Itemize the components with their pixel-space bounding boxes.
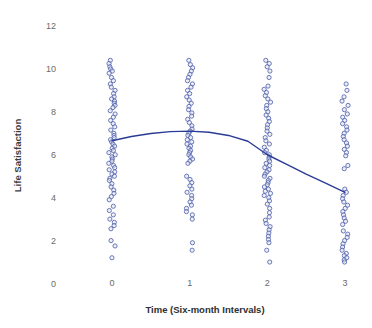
- data-point: [113, 244, 117, 248]
- data-point: [341, 222, 345, 226]
- data-point: [111, 204, 115, 208]
- y-tick-label-2: 2: [34, 236, 56, 246]
- x-tick-label-0: 0: [100, 278, 124, 288]
- data-point: [108, 217, 112, 221]
- data-point: [185, 190, 189, 194]
- data-point: [190, 213, 194, 217]
- data-point: [107, 71, 111, 75]
- trend-line: [112, 131, 345, 192]
- data-point: [262, 193, 266, 197]
- data-point: [113, 166, 117, 170]
- y-tick-label-0: 0: [34, 279, 56, 289]
- y-tick-label-12: 12: [34, 21, 56, 31]
- data-points-layer: [107, 58, 350, 264]
- y-axis-title: Life Satisfaction: [12, 96, 23, 216]
- data-point: [110, 256, 114, 260]
- data-point: [184, 210, 188, 214]
- data-point: [107, 161, 111, 165]
- data-point: [268, 163, 272, 167]
- data-point: [267, 75, 271, 79]
- data-point: [266, 84, 270, 88]
- data-point: [190, 114, 194, 118]
- data-point: [264, 221, 268, 225]
- scatter-plot-figure: 024681012 01230 Life Satisfaction Time (…: [0, 0, 372, 328]
- data-point: [340, 248, 344, 252]
- x-tick-label-1: 1: [178, 278, 202, 288]
- data-point: [344, 82, 348, 86]
- data-point: [267, 215, 271, 219]
- data-point: [264, 139, 268, 143]
- data-point: [346, 163, 350, 167]
- data-point: [190, 241, 194, 245]
- y-tick-label-4: 4: [34, 193, 56, 203]
- y-tick-label-8: 8: [34, 107, 56, 117]
- data-point: [341, 229, 345, 233]
- y-tick-label-6: 6: [34, 150, 56, 160]
- data-point: [268, 100, 272, 104]
- data-point: [109, 85, 113, 89]
- data-point: [341, 122, 345, 126]
- x-tick-label-2: 2: [255, 278, 279, 288]
- data-point: [264, 58, 268, 62]
- data-point: [107, 151, 111, 155]
- data-point: [268, 132, 272, 136]
- data-point: [185, 138, 189, 142]
- data-point: [345, 112, 349, 116]
- data-point: [262, 174, 266, 178]
- data-point: [268, 206, 272, 210]
- data-point: [187, 58, 191, 62]
- data-point: [109, 227, 113, 231]
- x-axis-title: Time (Six-month Intervals): [60, 304, 350, 315]
- data-point: [111, 213, 115, 217]
- data-point: [111, 148, 115, 152]
- data-point: [265, 65, 269, 69]
- data-point: [265, 248, 269, 252]
- data-point: [107, 198, 111, 202]
- data-point: [342, 167, 346, 171]
- data-point: [185, 174, 189, 178]
- data-point: [112, 174, 116, 178]
- data-point: [267, 241, 271, 245]
- y-tick-label-10: 10: [34, 64, 56, 74]
- data-point: [268, 69, 272, 73]
- data-point: [263, 189, 267, 193]
- data-point: [189, 85, 193, 89]
- data-point: [342, 260, 346, 264]
- data-point: [268, 191, 272, 195]
- data-point: [342, 108, 346, 112]
- data-point: [189, 203, 193, 207]
- data-point: [268, 260, 272, 264]
- data-point: [263, 166, 267, 170]
- x-tick-label-3: 3: [333, 278, 357, 288]
- data-point: [109, 238, 113, 242]
- data-point: [190, 248, 194, 252]
- data-point: [190, 140, 194, 144]
- data-point: [107, 208, 111, 212]
- data-point: [267, 142, 271, 146]
- data-point: [113, 125, 117, 129]
- data-point: [340, 99, 344, 103]
- data-point: [262, 185, 266, 189]
- data-point: [185, 79, 189, 83]
- data-point: [342, 95, 346, 99]
- data-point: [345, 88, 349, 92]
- data-point: [267, 211, 271, 215]
- data-point: [190, 187, 194, 191]
- data-point: [190, 217, 194, 221]
- data-point: [107, 168, 111, 172]
- data-point: [186, 108, 190, 112]
- data-point: [108, 109, 112, 113]
- data-point: [346, 103, 350, 107]
- data-point: [186, 161, 190, 165]
- data-point: [344, 154, 348, 158]
- data-point: [342, 200, 346, 204]
- data-point: [265, 202, 269, 206]
